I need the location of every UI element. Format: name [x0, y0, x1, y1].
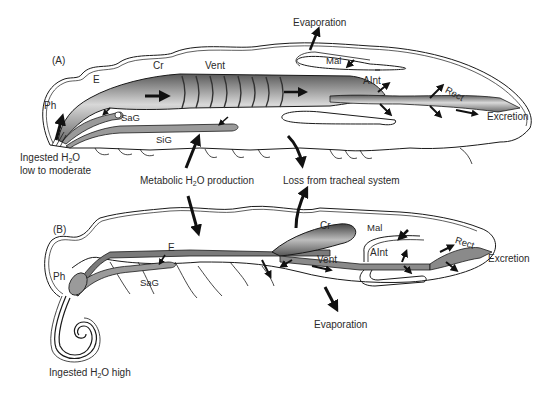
panel-b — [45, 206, 496, 362]
insect-water-balance-diagram — [0, 0, 552, 393]
panel-a — [43, 43, 532, 164]
label-a-ingested-line2: low to moderate — [20, 165, 91, 176]
panel-a-silk-gland — [66, 124, 238, 148]
ingested-a-suffix: O — [72, 152, 80, 163]
label-metabolic-production: Metabolic H2O production — [140, 175, 254, 186]
label-b-mal: Mal — [367, 222, 382, 233]
arrow-evaporation-a — [310, 30, 318, 50]
ingested-b-prefix: Ingested H — [49, 367, 97, 378]
label-b-evaporation: Evaporation — [314, 319, 367, 330]
panel-b-crop — [272, 224, 356, 256]
label-b-e: E — [168, 242, 175, 253]
arrow-metabolic-a — [186, 138, 198, 168]
arrow-tracheal-a — [288, 136, 302, 164]
metabolic-prefix: Metabolic H — [140, 175, 193, 186]
panel-a-malpighian-lower — [282, 111, 396, 125]
label-a-cr: Cr — [153, 60, 164, 71]
panel-b-malpighian-lower — [360, 270, 426, 286]
label-b-ingested: Ingested H2O high — [49, 367, 131, 378]
arrow-mal-in-b — [400, 230, 408, 238]
label-tracheal-loss: Loss from tracheal system — [283, 175, 400, 186]
panel-b-salivary-gland — [72, 262, 176, 296]
panel-b-coiled-proboscis — [51, 296, 100, 362]
label-a-sig: SiG — [156, 134, 172, 145]
panel-a-hindgut — [330, 95, 520, 112]
panel-b-ventriculus — [280, 256, 430, 270]
arrow-sig-in-a — [220, 117, 228, 124]
panel-a-letter: (A) — [52, 55, 65, 66]
arrow-rect-down-a — [430, 106, 440, 116]
label-a-vent: Vent — [205, 60, 225, 71]
arrow-aint-up-b — [402, 252, 406, 262]
label-a-excretion: Excretion — [487, 111, 529, 122]
arrow-excretion-a — [456, 110, 476, 114]
label-a-aint: AInt — [363, 75, 381, 86]
ingested-a-prefix: Ingested H — [20, 152, 68, 163]
label-b-aint: AInt — [370, 247, 388, 258]
label-b-excretion: Excretion — [488, 253, 530, 264]
label-a-sag: SaG — [121, 112, 140, 123]
label-b-sag: SaG — [140, 277, 159, 288]
arrow-metabolic-b — [188, 196, 198, 232]
label-a-mal: Mal — [326, 55, 341, 66]
label-b-ph: Ph — [53, 271, 65, 282]
label-a-e: E — [93, 74, 100, 85]
arrow-aint-down-a — [380, 104, 390, 114]
panel-b-hindgut — [430, 248, 492, 270]
label-a-evaporation: Evaporation — [293, 17, 346, 28]
arrow-evaporation-b — [325, 287, 336, 308]
arrow-tracheal-b — [296, 190, 306, 228]
label-a-ph: Ph — [44, 100, 56, 111]
arrow-rect-up-b — [440, 246, 452, 252]
label-b-cr: Cr — [320, 220, 331, 231]
label-a-ingested: Ingested H2O — [20, 152, 80, 163]
metabolic-suffix: O production — [197, 175, 254, 186]
label-b-vent: Vent — [317, 254, 337, 265]
ingested-b-suffix: O high — [101, 367, 130, 378]
panel-b-letter: (B) — [53, 224, 66, 235]
